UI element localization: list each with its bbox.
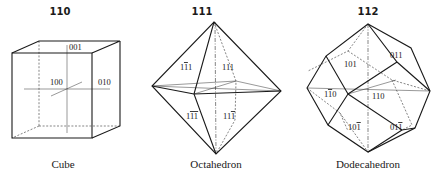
vertical-axis xyxy=(215,22,216,154)
cube-drawing: 001 100 010 xyxy=(0,0,145,176)
face-label-101: 101 xyxy=(344,59,357,69)
face-label-lower-left: 111 xyxy=(186,111,198,121)
face-label-10-1: 101 xyxy=(348,122,361,132)
face-label-010: 010 xyxy=(98,77,111,87)
front-edge xyxy=(368,130,402,152)
dodecahedron-drawing: 101 011 110 110 101 011 xyxy=(290,0,436,176)
face-label-001: 001 xyxy=(69,42,82,52)
face-label-upper-right: 111 xyxy=(222,62,234,72)
top-face xyxy=(12,41,120,53)
figure-caption: Octahedron xyxy=(166,158,266,170)
hidden-edge xyxy=(152,81,236,86)
front-edge xyxy=(194,91,281,94)
hidden-edge xyxy=(12,126,39,138)
face-label-1-10: 110 xyxy=(324,89,336,99)
face-label-011: 011 xyxy=(390,50,402,60)
hidden-edge xyxy=(340,113,368,152)
face-label-upper-left: 111 xyxy=(180,62,192,72)
face-label-01-1: 011 xyxy=(390,122,402,132)
octahedron-drawing: 111 111 111 111 xyxy=(145,0,290,176)
figure-octahedron: 111 111 111 111 111 Octahedron xyxy=(145,0,290,176)
outline xyxy=(152,22,281,154)
figure-caption: Cube xyxy=(13,158,113,170)
figure-caption: Dodecahedron xyxy=(318,158,418,170)
right-face xyxy=(92,41,120,138)
face-label-110: 110 xyxy=(372,91,384,101)
hidden-edge xyxy=(348,51,430,91)
face-label-lower-right: 111 xyxy=(223,111,235,121)
figure-cube: 110 001 100 010 Cube xyxy=(0,0,145,176)
figure-dodecahedron: 112 101 011 110 110 101 011 Dodecahedron xyxy=(290,0,436,176)
face-label-100: 100 xyxy=(50,77,63,87)
